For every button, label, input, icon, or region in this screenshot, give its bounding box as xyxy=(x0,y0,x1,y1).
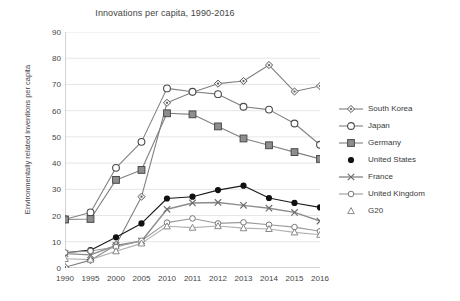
x-axis-tick-label: 2005 xyxy=(133,274,151,283)
data-point xyxy=(163,99,170,106)
x-axis-tick-label: 2015 xyxy=(286,274,304,283)
y-axis-tick-label: 10 xyxy=(39,237,61,246)
legend-item-label: United Kingdom xyxy=(368,189,425,198)
data-point xyxy=(189,111,196,118)
cross-marker-icon xyxy=(338,170,364,184)
y-axis-tick-label: 20 xyxy=(39,211,61,220)
legend-item-south-korea[interactable]: South Korea xyxy=(338,100,458,117)
series-line-g20 xyxy=(65,226,320,260)
data-point xyxy=(87,209,94,216)
series-markers-g20 xyxy=(65,223,320,263)
legend-item-label: G20 xyxy=(368,206,383,215)
data-point xyxy=(317,204,320,210)
series-markers-germany xyxy=(65,110,320,223)
data-point xyxy=(164,195,170,201)
data-point xyxy=(316,82,320,89)
legend-item-label: Germany xyxy=(368,138,401,147)
data-point xyxy=(113,234,119,240)
data-point xyxy=(317,156,320,163)
x-axis-tick-label: 2016 xyxy=(311,274,329,283)
data-point xyxy=(189,194,195,200)
legend-item-label: United States xyxy=(368,155,416,164)
chart-container: Innovations per capita, 1990-2016 Enviro… xyxy=(0,0,460,301)
square-marker-icon xyxy=(338,136,364,150)
data-point xyxy=(138,167,145,174)
y-axis-tick-label: 30 xyxy=(39,185,61,194)
data-point xyxy=(65,216,68,223)
legend-item-label: Japan xyxy=(368,121,390,130)
data-point xyxy=(190,216,196,222)
x-axis-tick-label: 2011 xyxy=(184,274,201,283)
chart-title: Innovations per capita, 1990-2016 xyxy=(0,8,330,18)
y-axis-title: Environmentally related inventions per c… xyxy=(23,50,32,230)
data-point xyxy=(215,187,221,193)
y-axis-tick-label: 70 xyxy=(39,80,61,89)
legend-item-g20[interactable]: G20 xyxy=(338,202,458,219)
data-point xyxy=(240,135,247,142)
legend-item-label: South Korea xyxy=(368,104,412,113)
data-point xyxy=(87,216,94,223)
data-point xyxy=(347,105,354,112)
legend-item-united-kingdom[interactable]: United Kingdom xyxy=(338,185,458,202)
data-point xyxy=(240,183,246,189)
data-point xyxy=(138,138,145,145)
y-axis-tick-label: 80 xyxy=(39,54,61,63)
data-point xyxy=(189,88,196,95)
legend-item-label: France xyxy=(368,172,393,181)
y-axis-tick-label: 40 xyxy=(39,159,61,168)
data-point xyxy=(266,142,273,149)
data-point xyxy=(164,85,171,92)
triangle-marker-icon xyxy=(338,204,364,218)
data-point xyxy=(215,91,222,98)
legend-item-united-states[interactable]: United States xyxy=(338,151,458,168)
data-point xyxy=(240,103,247,110)
circle-small-marker-icon xyxy=(338,187,364,201)
data-point xyxy=(65,250,68,256)
chart-legend: South KoreaJapanGermanyUnited StatesFran… xyxy=(338,100,458,219)
data-point xyxy=(113,164,120,171)
legend-item-japan[interactable]: Japan xyxy=(338,117,458,134)
data-point xyxy=(214,80,221,87)
x-axis-tick-label: 1995 xyxy=(82,274,100,283)
data-point xyxy=(291,120,298,127)
x-axis-tick-label: 2012 xyxy=(209,274,227,283)
series-markers-japan xyxy=(65,85,320,223)
data-point xyxy=(348,139,355,146)
legend-item-france[interactable]: France xyxy=(338,168,458,185)
circle-filled-marker-icon xyxy=(338,153,364,167)
x-axis-tick-label: 2000 xyxy=(107,274,125,283)
diamond-marker-icon xyxy=(338,102,364,116)
data-point xyxy=(266,195,272,201)
x-axis-tick-label: 1990 xyxy=(56,274,74,283)
plot-svg xyxy=(65,32,320,268)
data-point xyxy=(215,123,222,130)
x-axis-tick-label: 2010 xyxy=(158,274,176,283)
data-point xyxy=(291,200,297,206)
x-axis-tick-label: 2013 xyxy=(235,274,253,283)
data-point xyxy=(240,77,247,84)
data-point xyxy=(317,141,320,148)
data-point xyxy=(348,156,354,162)
data-point xyxy=(266,106,273,113)
data-point xyxy=(113,176,120,183)
circle-open-marker-icon xyxy=(338,119,364,133)
data-point xyxy=(291,149,298,156)
data-point xyxy=(138,220,144,226)
data-point xyxy=(164,110,171,117)
y-axis-tick-label: 50 xyxy=(39,132,61,141)
data-point xyxy=(348,207,355,213)
data-point xyxy=(348,122,355,129)
y-axis-tick-label: 60 xyxy=(39,106,61,115)
data-point xyxy=(88,248,94,254)
x-axis-tick-label: 2014 xyxy=(260,274,278,283)
y-axis-tick-label: 90 xyxy=(39,28,61,37)
plot-area: 0102030405060708090199019952000200520102… xyxy=(65,32,320,268)
data-point xyxy=(348,191,354,197)
y-axis-tick-label: 0 xyxy=(39,264,61,273)
data-point xyxy=(138,193,145,200)
legend-item-germany[interactable]: Germany xyxy=(338,134,458,151)
